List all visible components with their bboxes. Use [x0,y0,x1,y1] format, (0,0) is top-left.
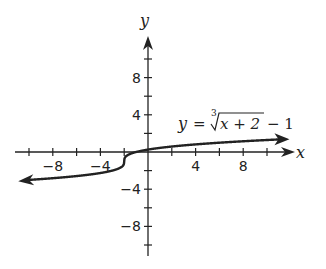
radicand: x + 2 [220,115,260,133]
y-axis-label: y [139,11,150,30]
cube-root-graph: −8−44884−4−8 y = 3 x + 2 − 1 x y [0,0,326,269]
y-tick-label: 8 [132,70,141,86]
y-tick-label: 4 [132,107,141,123]
x-axis-label: x [296,143,305,162]
x-tick-label: −8 [42,158,63,174]
root-index: 3 [211,108,217,118]
equation-equals: = [193,115,206,133]
chart-container: −8−44884−4−8 y = 3 x + 2 − 1 x y [0,0,326,269]
axes [15,36,295,256]
x-tick-label: 8 [239,158,248,174]
equation-label: y = 3 x + 2 − 1 [177,108,294,133]
x-tick-label: 4 [191,158,200,174]
y-tick-label: −4 [120,181,141,197]
y-tick-label: −8 [120,218,141,234]
equation-y: y [177,114,188,133]
equation-tail: − 1 [267,115,294,133]
